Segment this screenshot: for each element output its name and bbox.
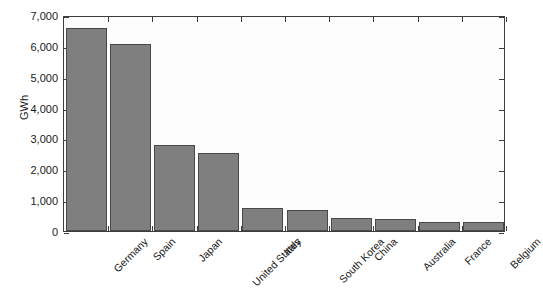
y-axis-tick-label: 1,000 <box>0 196 58 207</box>
bar <box>242 208 283 231</box>
x-axis-tick <box>197 17 198 22</box>
bar <box>463 222 504 231</box>
y-axis-tick-label: 0 <box>0 227 58 238</box>
bar <box>287 210 328 231</box>
x-axis-tick <box>418 17 419 22</box>
x-axis-tick-label: Spain <box>151 236 178 263</box>
y-axis-tick-label: 7,000 <box>0 11 58 22</box>
x-axis-tick-label: Germany <box>112 236 150 274</box>
x-axis-tick-label: Japan <box>196 236 224 264</box>
x-axis-tick <box>506 226 507 231</box>
plot-area <box>64 17 504 231</box>
x-axis-tick <box>152 17 153 22</box>
y-axis-tick <box>499 171 504 172</box>
x-axis-tick <box>329 17 330 22</box>
y-axis-tick-label: 2,000 <box>0 165 58 176</box>
x-axis-tick <box>241 17 242 22</box>
y-axis-tick-labels: 01,0002,0003,0004,0005,0006,0007,000 <box>0 16 58 232</box>
bar <box>419 222 460 231</box>
bar <box>331 218 372 231</box>
y-axis-tick-label: 6,000 <box>0 41 58 52</box>
plot-frame <box>63 16 505 232</box>
x-axis-tick <box>373 17 374 22</box>
x-axis-tick <box>285 17 286 22</box>
y-axis-tick <box>499 110 504 111</box>
x-axis-tick-label: Belgium <box>508 236 543 271</box>
x-axis-tick <box>108 17 109 22</box>
y-axis-tick <box>499 48 504 49</box>
bar <box>66 28 107 231</box>
x-axis-tick <box>462 17 463 22</box>
bar <box>110 44 151 231</box>
bar <box>375 219 416 231</box>
bar <box>198 153 239 231</box>
y-axis-tick-label: 5,000 <box>0 72 58 83</box>
x-axis-tick-label: France <box>462 236 493 267</box>
x-axis-tick-label: Australia <box>420 236 457 273</box>
y-axis-tick <box>499 140 504 141</box>
y-axis-tick-label: 4,000 <box>0 103 58 114</box>
y-axis-tick <box>64 17 69 18</box>
bar <box>154 145 195 231</box>
y-axis-tick <box>499 202 504 203</box>
y-axis-tick-label: 3,000 <box>0 134 58 145</box>
x-axis-tick-labels: GermanySpainJapanUnited StatesItalySouth… <box>63 232 505 300</box>
x-axis-tick <box>506 17 507 22</box>
y-axis-tick <box>499 79 504 80</box>
y-axis-tick <box>499 17 504 18</box>
